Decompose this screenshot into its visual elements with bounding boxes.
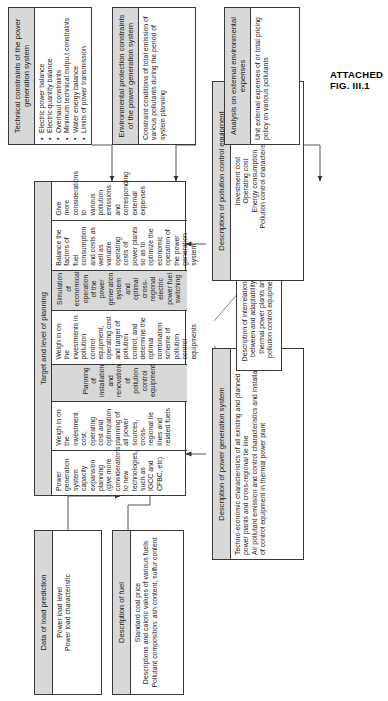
connector-technical-to-target xyxy=(92,145,112,181)
box-title-technical-constraints: Technical constraints of the power gener… xyxy=(9,8,35,144)
list-item: Limits of power transmission xyxy=(80,12,88,140)
box-title-power-generation-system: Description of power generation system xyxy=(213,349,231,559)
box-body-description-of-fuel: Standard coal price Descriptions and cal… xyxy=(131,531,162,694)
box-description-of-power-generation-system: Description of power generation system T… xyxy=(212,348,304,560)
box-data-of-load-prediction: Data of load prediction Power load level… xyxy=(34,530,102,695)
target-row-shaded: Planning of installation and renovation … xyxy=(52,364,187,402)
list-item: Water energy balance xyxy=(72,12,80,140)
box-environmental-protection-constraints: Environmental protection constraints of … xyxy=(112,7,196,145)
connector-load-to-target xyxy=(68,496,120,530)
target-rows: Power generation system capacity expansi… xyxy=(52,182,187,495)
target-row: Weigh in on the investment cost, operati… xyxy=(52,401,187,450)
box-title-external-expenses: Analysis on external environmental expen… xyxy=(225,8,251,144)
list-item: Electric power balance xyxy=(38,12,46,140)
box-title-load-prediction: Data of load prediction xyxy=(35,531,53,694)
box-title-environmental-constraints: Environmental protection constraints of … xyxy=(113,8,139,144)
list-item: Electric quantity balance xyxy=(46,12,54,140)
technical-constraints-list: Electric power balance Electric quantity… xyxy=(38,12,88,140)
box-body-external-expenses: Unit external expenses of or total prici… xyxy=(251,8,274,144)
box-body-environmental-constraints: Constraint conditions of total emission … xyxy=(139,8,170,144)
box-body-load-prediction: Power load level Power load characterist… xyxy=(53,531,76,694)
target-row-shaded: Simulation of economical operation of th… xyxy=(52,270,187,311)
box-title-description-of-fuel: Description of fuel xyxy=(113,531,131,694)
figure-caption: ATTACHED FIG. III.1 xyxy=(330,69,388,91)
target-row: Balance the factors of fuel consumption … xyxy=(52,220,187,270)
box-target-and-level-of-planning: Target and level of planning Power gener… xyxy=(34,181,186,496)
box-description-of-fuel: Description of fuel Standard coal price … xyxy=(112,530,184,695)
box-technical-constraints: Technical constraints of the power gener… xyxy=(8,7,92,145)
box-body-technical-constraints: Electric power balance Electric quantity… xyxy=(35,8,91,144)
target-row: Give more considerations to various poll… xyxy=(52,182,187,220)
box-analysis-external-environmental-expenses: Analysis on external environmental expen… xyxy=(224,7,300,145)
connector-environmental-to-target xyxy=(176,145,196,181)
box-body-power-generation-system: Techno-economic characteristics of all e… xyxy=(231,349,271,559)
list-item: Overhaul constraints xyxy=(55,12,63,140)
target-row: Weigh in on the investments in pollution… xyxy=(52,310,187,363)
target-row: Power generation system capacity expansi… xyxy=(52,450,187,495)
box-title-target-and-level-of-planning: Target and level of planning xyxy=(35,182,52,495)
list-item: Minimum technical outpu.t constraints xyxy=(63,12,71,140)
